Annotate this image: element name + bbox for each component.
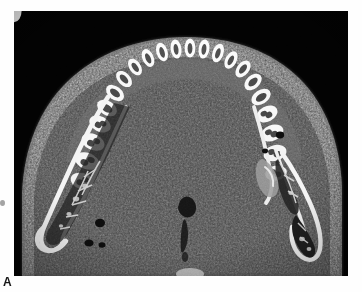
scan-vignette [14, 11, 348, 276]
panel-label: A [3, 276, 12, 288]
figure-panel: A [0, 0, 362, 292]
scanner-edge-speck [0, 200, 5, 206]
ct-scan-canvas [14, 11, 348, 276]
ct-scan-image [14, 11, 348, 276]
